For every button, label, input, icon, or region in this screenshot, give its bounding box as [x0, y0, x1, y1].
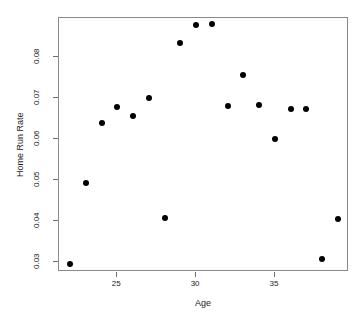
- data-point: [303, 106, 309, 112]
- y-axis-tick: [53, 220, 58, 221]
- plot-area: [58, 17, 348, 271]
- y-axis-tick: [53, 261, 58, 262]
- data-point: [272, 136, 278, 142]
- data-point: [67, 261, 73, 267]
- data-point: [225, 103, 231, 109]
- y-axis-tick-label: 0.05: [32, 165, 41, 193]
- scatter-plot-figure: 0.030.040.050.060.070.08 253035 Home Run…: [0, 0, 358, 332]
- x-axis-tick: [116, 272, 117, 277]
- data-point: [146, 95, 152, 101]
- y-axis-tick: [53, 97, 58, 98]
- data-point: [256, 102, 262, 108]
- data-point: [99, 120, 105, 126]
- y-axis-tick: [53, 138, 58, 139]
- y-axis-title: Home Run Rate: [14, 0, 26, 290]
- data-point: [319, 256, 325, 262]
- data-point: [209, 21, 215, 27]
- y-axis-tick: [53, 56, 58, 57]
- data-point: [193, 22, 199, 28]
- data-point: [130, 113, 136, 119]
- y-axis-tick-label: 0.07: [32, 83, 41, 111]
- data-point: [335, 216, 341, 222]
- x-axis-title: Age: [58, 298, 348, 308]
- data-point: [83, 180, 89, 186]
- data-point: [240, 72, 246, 78]
- y-axis-tick-label: 0.04: [32, 206, 41, 234]
- x-axis-tick: [274, 272, 275, 277]
- x-axis-tick-label: 35: [259, 279, 289, 288]
- data-point: [177, 40, 183, 46]
- x-axis-tick: [195, 272, 196, 277]
- x-axis-tick-label: 25: [101, 279, 131, 288]
- y-axis-tick-label: 0.06: [32, 124, 41, 152]
- data-point: [288, 106, 294, 112]
- y-axis-tick-label: 0.03: [32, 247, 41, 275]
- y-axis-tick-label: 0.08: [32, 42, 41, 70]
- y-axis-tick: [53, 179, 58, 180]
- data-point: [114, 104, 120, 110]
- data-point: [162, 215, 168, 221]
- x-axis-tick-label: 30: [180, 279, 210, 288]
